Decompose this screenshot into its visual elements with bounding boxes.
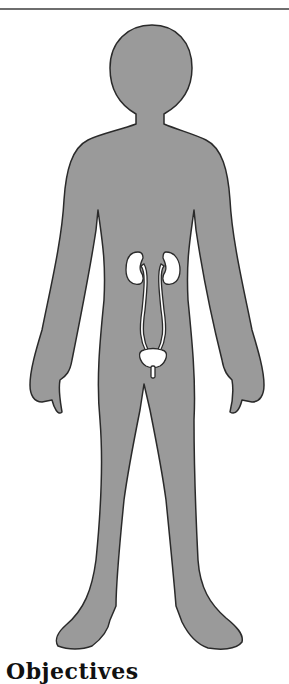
top-divider-rule	[0, 8, 289, 10]
urinary-system-figure	[0, 12, 289, 662]
body-silhouette	[30, 25, 264, 649]
section-heading-objectives: Objectives	[6, 660, 139, 682]
urethra	[151, 366, 155, 378]
left-kidney	[126, 252, 143, 284]
bladder	[140, 349, 167, 368]
body-outline	[30, 25, 264, 649]
